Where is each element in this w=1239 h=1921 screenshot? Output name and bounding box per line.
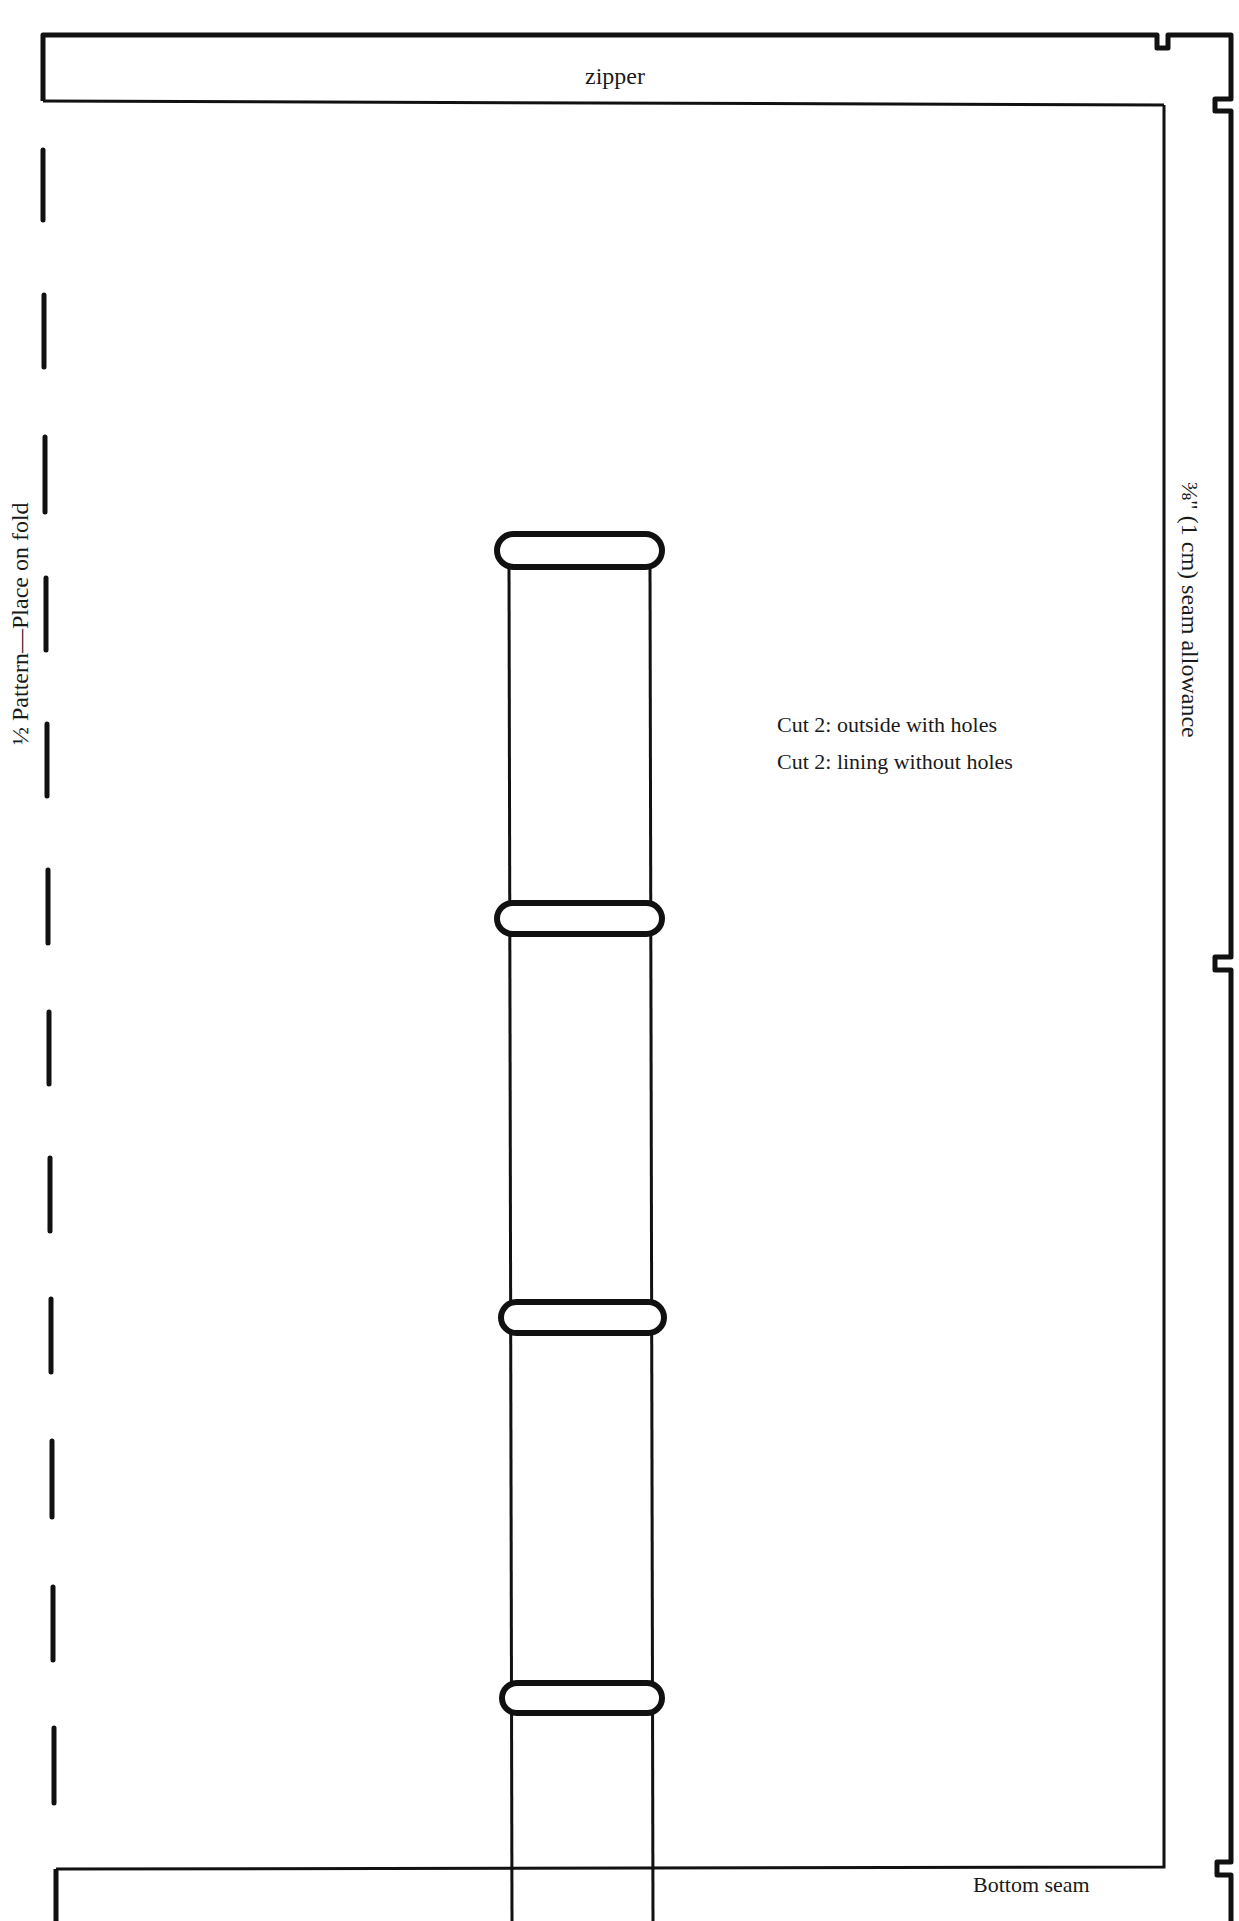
- cut-instruction-outside: Cut 2: outside with holes: [777, 714, 997, 736]
- strap-hole-3: [501, 1302, 664, 1333]
- outer-frame: [43, 35, 1231, 1921]
- fold-edge-label: ½ Pattern—Place on fold: [8, 502, 32, 745]
- bottom-seam-label: Bottom seam: [973, 1874, 1090, 1896]
- cut-instruction-lining: Cut 2: lining without holes: [777, 751, 1013, 773]
- strap-hole-4: [502, 1683, 662, 1713]
- pattern-drawing: [0, 0, 1239, 1921]
- strap: [509, 567, 653, 1921]
- fold-line-dashes: [43, 150, 54, 1803]
- strap-hole-2: [497, 903, 662, 934]
- zipper-band-line: [43, 101, 1164, 105]
- seam-allowance-line: [56, 105, 1164, 1869]
- seam-allowance-label: ⅜" (1 cm) seam allowance: [1178, 482, 1202, 738]
- strap-holes: [497, 534, 664, 1713]
- strap-hole-1: [497, 534, 662, 567]
- zipper-label: zipper: [585, 64, 645, 88]
